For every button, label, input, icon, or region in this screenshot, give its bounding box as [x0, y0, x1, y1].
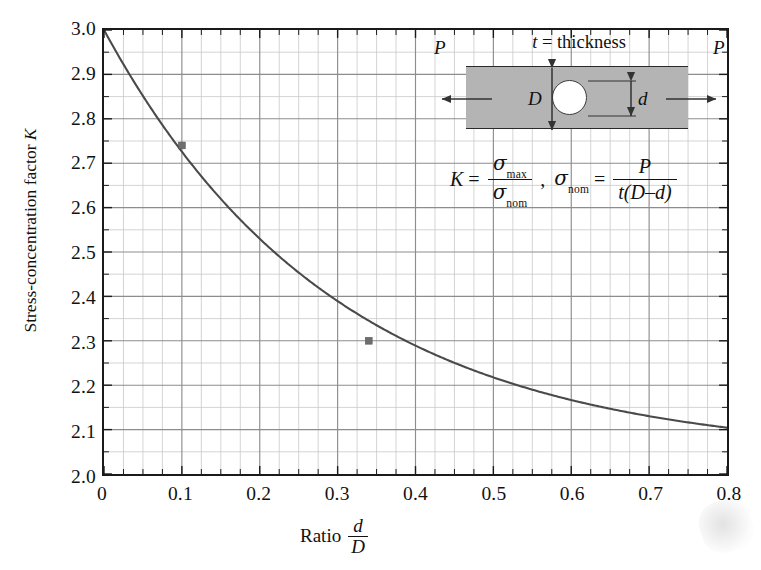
y-tick-label: 2.2	[50, 377, 96, 397]
formula-fraction-k: σmax σnom	[488, 152, 533, 207]
x-tick-label: 0.2	[229, 484, 289, 504]
formula-P: P	[634, 155, 656, 178]
y-tick-label: 2.3	[50, 333, 96, 353]
sigma-glyph-3: σ	[554, 166, 568, 190]
x-axis-fraction-numerator: d	[350, 516, 366, 536]
formula-comma: ,	[540, 168, 545, 191]
x-tick-label: 0.3	[307, 484, 367, 504]
y-axis-title-symbol: K	[20, 128, 40, 140]
x-tick-label: 0.5	[464, 484, 524, 504]
width-label-D: D	[528, 89, 542, 108]
x-axis-tick-labels: 00.10.20.30.40.50.60.70.8	[0, 484, 761, 514]
y-axis-title-text: Stress-concentration factor	[20, 145, 40, 333]
y-tick-label: 2.1	[50, 422, 96, 442]
stress-concentration-chart-figure: 2.02.12.22.32.42.52.62.72.82.93.0 00.10.…	[0, 0, 761, 570]
y-tick-label: 2.8	[50, 109, 96, 129]
x-tick-label: 0.8	[699, 484, 759, 504]
x-tick-label: 0.4	[386, 484, 446, 504]
formula-denominator: t(D–d)	[613, 179, 676, 203]
x-tick-label: 0.6	[542, 484, 602, 504]
sub-nom-2: nom	[568, 183, 589, 195]
x-axis-fraction-denominator: D	[348, 536, 368, 557]
x-axis-title: Ratio d D	[300, 516, 368, 557]
x-tick-label: 0.1	[150, 484, 210, 504]
y-tick-label: 3.0	[50, 19, 96, 39]
inset-annotations	[420, 44, 738, 154]
x-tick-label: 0	[72, 484, 132, 504]
force-label-left: P	[434, 38, 446, 57]
formula-sigma-nom-2: σnom	[554, 166, 589, 192]
sigma-glyph-2: σ	[493, 180, 507, 204]
formula-equals-1: =	[468, 168, 479, 191]
y-tick-label: 2.6	[50, 198, 96, 218]
marker-b	[365, 337, 372, 344]
formula-sigma-max: σmax	[488, 152, 532, 179]
sigma-glyph-1: σ	[493, 151, 507, 175]
bar-specimen: P P D d	[466, 66, 688, 129]
x-axis-title-text: Ratio	[300, 525, 341, 547]
sub-nom-1: nom	[506, 197, 527, 209]
y-tick-label: 2.5	[50, 243, 96, 263]
sub-max: max	[507, 168, 527, 180]
y-tick-label: 2.4	[50, 288, 96, 308]
force-label-right: P	[713, 38, 725, 57]
formula-equals-2: =	[594, 168, 605, 191]
y-axis-title: Stress-concentration factor K	[20, 51, 41, 411]
formula-block: K = σmax σnom , σnom = P t(D–d)	[450, 152, 680, 207]
y-tick-label: 2.9	[50, 64, 96, 84]
formula-sigma-nom-1: σnom	[488, 179, 533, 207]
x-tick-label: 0.7	[621, 484, 681, 504]
x-axis-title-fraction: d D	[348, 516, 368, 557]
y-tick-label: 2.7	[50, 153, 96, 173]
marker-a	[178, 142, 185, 149]
formula-K: K	[450, 168, 463, 191]
formula-fraction-sigma: P t(D–d)	[613, 155, 676, 203]
hole-label-d: d	[638, 89, 648, 108]
